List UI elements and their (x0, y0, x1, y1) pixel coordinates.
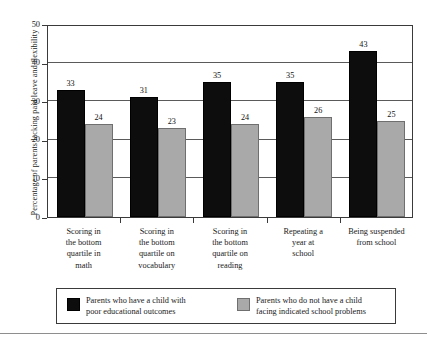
bar-value-label: 24 (228, 113, 262, 122)
y-tick-label: 40 (0, 58, 40, 67)
category-label: Scoring inthe bottomquartile onreading (189, 226, 271, 271)
bar (130, 97, 158, 217)
plot-area: 33243123352435264325 (47, 25, 413, 218)
footer-divider (0, 333, 427, 334)
y-tick-label: 10 (0, 174, 40, 183)
legend-label: Parents who do not have a childfacing in… (256, 295, 366, 318)
bar-value-label: 25 (374, 110, 408, 119)
chart-figure: Percentage of parents lacking paid leave… (0, 0, 427, 340)
legend-item: Parents who do not have a childfacing in… (237, 295, 366, 318)
bar-value-label: 24 (82, 113, 116, 122)
bar (304, 117, 332, 217)
y-tick-label: 50 (0, 20, 40, 29)
bar (85, 124, 113, 217)
bar-value-label: 33 (54, 79, 88, 88)
bar-value-label: 31 (127, 86, 161, 95)
legend-swatch-light (237, 298, 250, 311)
bar-value-label: 43 (346, 40, 380, 49)
bar-value-label: 26 (301, 106, 335, 115)
legend-label: Parents who have a child withpoor educat… (86, 295, 186, 318)
y-tick-label: 30 (0, 97, 40, 106)
y-axis-title: Percentage of parents lacking paid leave… (30, 5, 39, 241)
y-tick-label: 0 (0, 213, 40, 222)
legend-swatch-dark (67, 298, 80, 311)
legend-item: Parents who have a child withpoor educat… (67, 295, 186, 318)
category-label: Scoring inthe bottomquartile onvocabular… (116, 226, 198, 271)
x-tick-mark (120, 218, 121, 223)
category-label: Scoring inthe bottomquartile inmath (43, 226, 125, 271)
bar-value-label: 35 (200, 71, 234, 80)
bar (203, 82, 231, 217)
chart-legend: Parents who have a child withpoor educat… (56, 288, 396, 324)
bar (377, 121, 405, 218)
bar-value-label: 35 (273, 71, 307, 80)
bar-value-label: 23 (155, 117, 189, 126)
bar (158, 128, 186, 217)
y-tick-label: 20 (0, 135, 40, 144)
x-tick-mark (193, 218, 194, 223)
bar (349, 51, 377, 217)
category-label: Being suspendedfrom school (328, 226, 424, 248)
y-tick-mark (42, 218, 47, 219)
bar (57, 90, 85, 217)
bar (231, 124, 259, 217)
bar (276, 82, 304, 217)
x-tick-mark (267, 218, 268, 223)
x-tick-mark (340, 218, 341, 223)
